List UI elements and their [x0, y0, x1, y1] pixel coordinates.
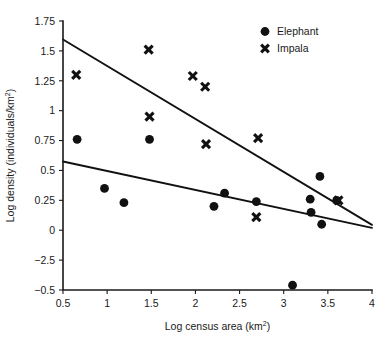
chart-legend: ElephantImpala — [261, 25, 319, 54]
regression-line-elephant — [63, 161, 372, 227]
x-tick-label: 0.5 — [56, 297, 71, 309]
regression-line-impala — [63, 40, 372, 225]
data-point-elephant — [120, 198, 129, 207]
axes — [63, 21, 372, 290]
data-point-elephant — [210, 202, 219, 211]
data-point-impala — [254, 134, 262, 142]
x-tick-label: 4 — [369, 297, 375, 309]
data-point-elephant — [317, 220, 326, 229]
legend-marker-x — [261, 45, 269, 53]
y-tick-label: 1.75 — [35, 15, 56, 27]
y-tick-label: 0.25 — [35, 194, 56, 206]
data-point-elephant — [145, 135, 154, 144]
legend-marker-circle — [261, 27, 270, 36]
data-point-elephant — [316, 172, 325, 181]
legend-label-impala: Impala — [277, 42, 309, 54]
y-tick-label: −2.5 — [34, 254, 55, 266]
y-tick-label: 0 — [49, 224, 55, 236]
data-point-impala — [146, 113, 154, 121]
data-point-elephant — [100, 184, 109, 193]
data-point-elephant — [288, 281, 297, 290]
x-axis-title: Log census area (km2) — [165, 320, 270, 332]
x-tick-label: 3.5 — [321, 297, 336, 309]
y-tick-label: 1 — [49, 104, 55, 116]
data-point-impala — [201, 83, 209, 91]
tick-marks — [59, 21, 372, 294]
x-tick-label: 2.5 — [232, 297, 247, 309]
y-axis-title: Log density (individuals/km2) — [4, 89, 16, 222]
tick-labels: −0.5−2.500.250.50.7511.251.51.750.511.52… — [34, 15, 375, 309]
figure-container: −0.5−2.500.250.50.7511.251.51.750.511.52… — [0, 0, 385, 337]
data-point-elephant — [220, 189, 229, 198]
data-point-impala — [145, 46, 153, 54]
data-point-elephant — [306, 195, 315, 204]
axis-lines — [63, 21, 372, 290]
data-point-impala — [252, 213, 260, 221]
data-point-impala — [189, 72, 197, 80]
data-point-impala — [202, 140, 210, 148]
x-tick-label: 1 — [104, 297, 110, 309]
x-tick-label: 1.5 — [144, 297, 159, 309]
y-tick-label: −0.5 — [34, 284, 55, 296]
data-point-elephant — [307, 208, 316, 217]
y-tick-label: 1.5 — [40, 45, 55, 57]
legend-label-elephant: Elephant — [277, 25, 319, 37]
x-tick-label: 3 — [281, 297, 287, 309]
x-tick-label: 2 — [193, 297, 199, 309]
y-tick-label: 0.75 — [35, 134, 56, 146]
data-point-elephant — [73, 135, 82, 144]
y-tick-label: 0.5 — [40, 164, 55, 176]
data-points — [72, 46, 342, 290]
data-point-impala — [72, 71, 80, 79]
regression-lines — [63, 40, 372, 228]
y-tick-label: 1.25 — [35, 75, 56, 87]
data-point-elephant — [252, 197, 261, 206]
scatter-plot: −0.5−2.500.250.50.7511.251.51.750.511.52… — [0, 0, 385, 337]
